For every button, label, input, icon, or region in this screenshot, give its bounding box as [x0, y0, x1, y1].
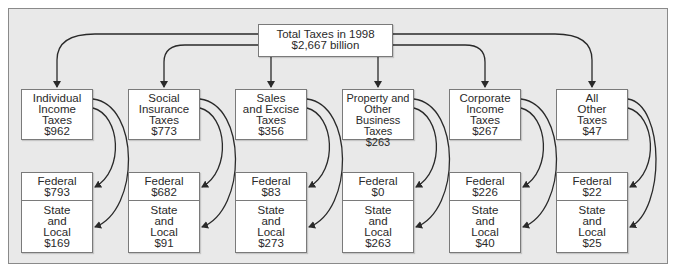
split-node-individual-income: Federal $793 State and Local $169 — [21, 172, 93, 253]
category-node-property-business: Property and Other Business Taxes $263 — [342, 89, 414, 140]
split-arrows-col5 — [521, 99, 557, 227]
federal-cell: Federal $793 — [22, 173, 92, 201]
state-local-amount: $169 — [22, 238, 92, 249]
split-node-sales-excise: Federal $83 State and Local $273 — [235, 172, 307, 253]
federal-amount: $793 — [22, 187, 92, 198]
split-arrows-col1 — [93, 99, 129, 227]
category-node-corporate-income: Corporate Income Taxes $267 — [449, 89, 521, 140]
category-amount: $267 — [450, 126, 520, 137]
federal-amount: $226 — [450, 187, 520, 198]
category-amount: $356 — [236, 126, 306, 137]
state-local-cell: State and Local $169 — [22, 201, 92, 249]
category-node-all-other: All Other Taxes $47 — [556, 89, 628, 140]
category-amount: $47 — [557, 126, 627, 137]
total-value: $2,667 billion — [259, 40, 392, 51]
state-local-cell: State and Local $40 — [450, 201, 520, 249]
state-local-cell: State and Local $273 — [236, 201, 306, 249]
state-local-amount: $273 — [236, 238, 306, 249]
federal-amount: $0 — [343, 187, 413, 198]
category-node-social-insurance: Social Insurance Taxes $773 — [128, 89, 200, 140]
split-arrows-col4 — [414, 99, 450, 227]
federal-cell: Federal $0 — [343, 173, 413, 201]
category-amount: $962 — [22, 126, 92, 137]
arrow-to-other — [393, 34, 592, 87]
state-local-cell: State and Local $91 — [129, 201, 199, 249]
federal-cell: Federal $22 — [557, 173, 627, 201]
arrow-to-individual — [57, 34, 258, 87]
split-arrows-col6 — [628, 99, 656, 227]
federal-cell: Federal $682 — [129, 173, 199, 201]
state-local-amount: $25 — [557, 238, 627, 249]
federal-amount: $83 — [236, 187, 306, 198]
category-amount: $773 — [129, 126, 199, 137]
split-node-corporate-income: Federal $226 State and Local $40 — [449, 172, 521, 253]
arrow-to-corporate — [393, 45, 485, 87]
category-label: Other Business — [343, 104, 413, 126]
state-local-amount: $91 — [129, 238, 199, 249]
federal-cell: Federal $226 — [450, 173, 520, 201]
arrow-to-social — [164, 45, 258, 87]
category-node-individual-income: Individual Income Taxes $962 — [21, 89, 93, 140]
state-local-cell: State and Local $263 — [343, 201, 413, 249]
state-local-cell: State and Local $25 — [557, 201, 627, 249]
split-arrows-col3 — [307, 99, 343, 227]
federal-amount: $22 — [557, 187, 627, 198]
state-local-amount: $40 — [450, 238, 520, 249]
split-node-property-business: Federal $0 State and Local $263 — [342, 172, 414, 253]
total-taxes-node: Total Taxes in 1998 $2,667 billion — [258, 24, 393, 57]
category-node-sales-excise: Sales and Excise Taxes $356 — [235, 89, 307, 140]
federal-cell: Federal $83 — [236, 173, 306, 201]
federal-amount: $682 — [129, 187, 199, 198]
category-amount: $263 — [343, 137, 413, 148]
split-node-social-insurance: Federal $682 State and Local $91 — [128, 172, 200, 253]
split-arrows-col2 — [200, 99, 236, 227]
state-local-amount: $263 — [343, 238, 413, 249]
split-node-all-other: Federal $22 State and Local $25 — [556, 172, 628, 253]
